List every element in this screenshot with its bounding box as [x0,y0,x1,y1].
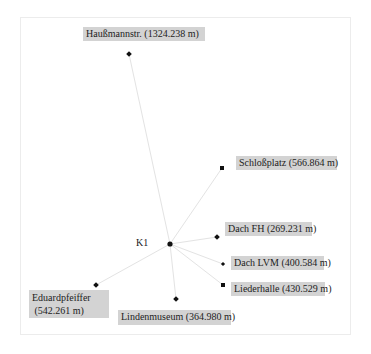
label-schlossplatz: Schloßplatz (566.864 m) [236,156,337,170]
label-eduardpfeiffer: Eduardpfeiffer (542.261 m) [29,290,109,318]
label-liederhalle: Liederhalle (430.529 m) [231,282,325,296]
edge-liederhalle [170,244,223,285]
node-liederhalle[interactable] [221,283,225,287]
node-lindenmuseum[interactable] [173,296,179,302]
edge-eduardpfeiffer [96,244,170,285]
center-node-label: K1 [136,237,148,249]
node-eduardpfeiffer[interactable] [93,282,99,288]
node-schlossplatz[interactable] [220,166,224,170]
edge-lindenmuseum [170,244,176,299]
node-k1[interactable] [167,241,172,246]
edge-dach-fh [170,237,217,244]
label-haussmann: Haußmannstr. (1324.238 m) [83,27,205,41]
node-dach-fh[interactable] [214,234,220,240]
edge-haussmann [129,54,170,244]
label-dach-lvm: Dach LVM (400.584 m) [231,256,324,270]
edge-dach-lvm [170,244,223,264]
label-lindenmuseum: Lindenmuseum (364.980 m) [118,310,231,325]
node-haussmann[interactable] [126,51,132,57]
edge-schlossplatz [170,168,222,244]
node-dach-lvm[interactable] [221,262,225,266]
label-dach-fh: Dach FH (269.231 m) [225,222,312,236]
